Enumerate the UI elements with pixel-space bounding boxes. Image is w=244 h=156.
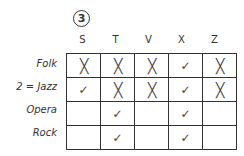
cross-icon: ╳ bbox=[148, 82, 156, 98]
column-header-t: T bbox=[99, 34, 132, 45]
check-icon: ✓ bbox=[180, 59, 190, 73]
grid-cell[interactable]: ╳ bbox=[135, 54, 169, 78]
cross-icon: ╳ bbox=[216, 58, 224, 74]
row-label-rock: Rock bbox=[0, 127, 57, 138]
grid-cell[interactable] bbox=[67, 126, 101, 150]
grid-cell[interactable]: ╳ bbox=[135, 78, 169, 102]
column-header-s: S bbox=[66, 34, 99, 45]
cross-icon: ╳ bbox=[114, 82, 122, 98]
grid-cell[interactable]: ╳ bbox=[101, 78, 135, 102]
row-label-jazz: 2 = Jazz bbox=[0, 81, 57, 92]
check-icon: ✓ bbox=[112, 107, 122, 121]
grid-cell[interactable] bbox=[135, 126, 169, 150]
grid-cell[interactable]: ✓ bbox=[169, 102, 203, 126]
grid-row: ✓✓ bbox=[67, 102, 237, 126]
logic-grid: ╳╳╳✓╳✓╳╳✓╳✓✓✓✓ bbox=[66, 53, 237, 150]
grid-cell[interactable]: ✓ bbox=[169, 54, 203, 78]
grid-row: ╳╳╳✓╳ bbox=[67, 54, 237, 78]
grid-cell[interactable] bbox=[67, 102, 101, 126]
check-icon: ✓ bbox=[180, 107, 190, 121]
grid-cell[interactable]: ✓ bbox=[101, 102, 135, 126]
grid-cell[interactable]: ╳ bbox=[101, 54, 135, 78]
cross-icon: ╳ bbox=[216, 82, 224, 98]
grid-cell[interactable]: ✓ bbox=[67, 78, 101, 102]
column-header-v: V bbox=[132, 34, 165, 45]
row-label-folk: Folk bbox=[0, 58, 57, 69]
grid-cell[interactable]: ✓ bbox=[101, 126, 135, 150]
cross-icon: ╳ bbox=[80, 58, 88, 74]
puzzle-number-badge: 3 bbox=[73, 10, 90, 27]
check-icon: ✓ bbox=[112, 131, 122, 145]
grid-cell[interactable]: ✓ bbox=[169, 126, 203, 150]
grid-cell[interactable]: ╳ bbox=[203, 54, 237, 78]
cross-icon: ╳ bbox=[114, 58, 122, 74]
grid-row: ✓✓ bbox=[67, 126, 237, 150]
column-header-x: X bbox=[165, 34, 198, 45]
grid-cell[interactable] bbox=[203, 126, 237, 150]
cross-icon: ╳ bbox=[148, 58, 156, 74]
grid-cell[interactable]: ✓ bbox=[169, 78, 203, 102]
grid-row: ✓╳╳✓╳ bbox=[67, 78, 237, 102]
column-header-z: Z bbox=[198, 34, 231, 45]
check-icon: ✓ bbox=[78, 83, 88, 97]
check-icon: ✓ bbox=[180, 131, 190, 145]
check-icon: ✓ bbox=[180, 83, 190, 97]
grid-cell[interactable]: ╳ bbox=[203, 78, 237, 102]
grid-cell[interactable] bbox=[135, 102, 169, 126]
grid-cell[interactable] bbox=[203, 102, 237, 126]
row-label-opera: Opera bbox=[0, 104, 57, 115]
grid-cell[interactable]: ╳ bbox=[67, 54, 101, 78]
